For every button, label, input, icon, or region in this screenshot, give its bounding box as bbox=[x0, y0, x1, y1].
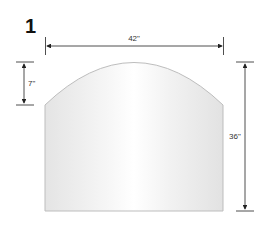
arched-panel-diagram: 1 42" 7" 36" bbox=[0, 0, 267, 228]
arch-height-label: 7" bbox=[28, 79, 35, 88]
total-height-label: 36" bbox=[229, 132, 241, 141]
width-label: 42" bbox=[128, 34, 140, 43]
figure-number: 1 bbox=[25, 15, 36, 37]
arched-panel-shape bbox=[45, 63, 223, 212]
